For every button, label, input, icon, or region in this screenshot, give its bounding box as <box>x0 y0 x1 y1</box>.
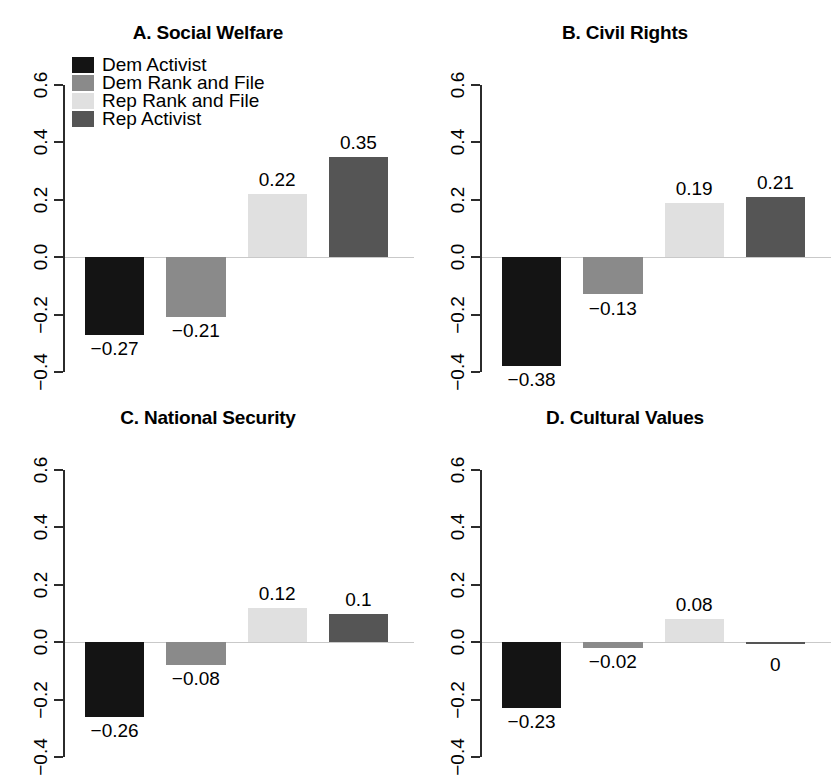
y-axis-tick-label: 0.6 <box>30 55 52 115</box>
y-axis-tick <box>54 371 63 373</box>
panel-title: C. National Security <box>0 407 416 429</box>
chart-panel-b: B. Civil Rights0.60.40.20.0−0.2−0.4−0.38… <box>417 0 833 384</box>
y-axis-tick <box>54 84 63 86</box>
y-axis-tick-label: 0.2 <box>447 170 469 230</box>
bar-value-label: 0.08 <box>644 594 745 616</box>
bar <box>85 642 144 717</box>
y-axis-tick <box>54 699 63 701</box>
bar <box>665 619 724 642</box>
y-axis-tick-label: −0.2 <box>447 670 469 730</box>
y-axis-tick-label: 0.4 <box>447 112 469 172</box>
bar <box>248 608 307 642</box>
bar-value-label: −0.21 <box>145 320 246 342</box>
y-axis-tick <box>471 584 480 586</box>
bar-value-label: −0.23 <box>481 711 582 733</box>
panel-title: A. Social Welfare <box>0 22 416 44</box>
bar <box>248 194 307 257</box>
y-axis-tick-label: 0.2 <box>30 555 52 615</box>
legend-swatch-icon <box>72 75 94 91</box>
y-axis-tick-label: 0.4 <box>447 497 469 557</box>
bar <box>502 257 561 366</box>
y-axis-line <box>63 470 65 757</box>
y-axis-tick <box>471 371 480 373</box>
y-axis-tick-label: 0.6 <box>447 55 469 115</box>
bar <box>85 257 144 334</box>
y-axis-tick <box>471 641 480 643</box>
y-axis-tick <box>471 469 480 471</box>
chart-panel-c: C. National Security0.60.40.20.0−0.2−0.4… <box>0 385 416 769</box>
y-axis-tick-label: 0.2 <box>447 555 469 615</box>
bar <box>746 197 805 257</box>
bar <box>583 642 642 648</box>
y-axis-tick-label: −0.4 <box>30 727 52 779</box>
chart-panel-d: D. Cultural Values0.60.40.20.0−0.2−0.4−0… <box>417 385 833 769</box>
legend-swatch-icon <box>72 111 94 127</box>
y-axis-tick <box>54 314 63 316</box>
y-axis-tick <box>54 199 63 201</box>
y-axis-tick <box>54 256 63 258</box>
chart-panel-a: A. Social Welfare0.60.40.20.0−0.2−0.4−0.… <box>0 0 416 384</box>
y-axis-tick <box>471 84 480 86</box>
y-axis-tick <box>54 756 63 758</box>
y-axis-tick <box>54 641 63 643</box>
y-axis-tick <box>54 526 63 528</box>
y-axis-tick <box>471 699 480 701</box>
y-axis-tick-label: −0.4 <box>447 727 469 779</box>
y-axis-tick-label: 0.0 <box>30 227 52 287</box>
y-axis-tick <box>54 141 63 143</box>
bar <box>746 642 805 644</box>
y-axis-tick-label: 0.2 <box>30 170 52 230</box>
y-axis-tick <box>471 526 480 528</box>
legend-label: Rep Activist <box>102 108 201 130</box>
y-axis-line <box>63 85 65 372</box>
y-axis-tick-label: 0.0 <box>447 227 469 287</box>
legend-swatch-icon <box>72 93 94 109</box>
y-axis-tick-label: 0.0 <box>447 612 469 672</box>
legend-swatch-icon <box>72 57 94 73</box>
y-axis-tick <box>471 141 480 143</box>
bar <box>166 642 225 665</box>
y-axis-tick-label: −0.2 <box>30 670 52 730</box>
bar-value-label: −0.26 <box>64 720 165 742</box>
y-axis-tick-label: 0.4 <box>30 497 52 557</box>
y-axis-tick <box>471 314 480 316</box>
y-axis-tick-label: 0.6 <box>30 440 52 500</box>
bar-value-label: −0.08 <box>145 668 246 690</box>
legend-item: Rep Activist <box>72 110 265 128</box>
y-axis-tick-label: −0.2 <box>30 285 52 345</box>
y-axis-line <box>480 85 482 372</box>
legend: Dem ActivistDem Rank and FileRep Rank an… <box>72 56 265 128</box>
bar <box>166 257 225 317</box>
y-axis-tick-label: 0.4 <box>30 112 52 172</box>
y-axis-tick-label: 0.6 <box>447 440 469 500</box>
bar-value-label: 0.21 <box>725 172 826 194</box>
y-axis-tick <box>471 756 480 758</box>
y-axis-tick <box>54 469 63 471</box>
bar <box>329 614 388 643</box>
bar-value-label: 0 <box>725 654 826 676</box>
bar-value-label: −0.02 <box>562 651 663 673</box>
y-axis-tick <box>471 256 480 258</box>
bar-value-label: 0.1 <box>308 589 409 611</box>
bar-value-label: 0.35 <box>308 132 409 154</box>
bar-value-label: −0.13 <box>562 298 663 320</box>
y-axis-tick-label: 0.0 <box>30 612 52 672</box>
y-axis-tick <box>471 199 480 201</box>
bar <box>665 203 724 258</box>
bar <box>583 257 642 294</box>
bar-value-label: 0.22 <box>227 169 328 191</box>
y-axis-tick-label: −0.2 <box>447 285 469 345</box>
panel-title: B. Civil Rights <box>417 22 833 44</box>
y-axis-tick <box>54 584 63 586</box>
bar <box>502 642 561 708</box>
panel-title: D. Cultural Values <box>417 407 833 429</box>
bar <box>329 157 388 257</box>
